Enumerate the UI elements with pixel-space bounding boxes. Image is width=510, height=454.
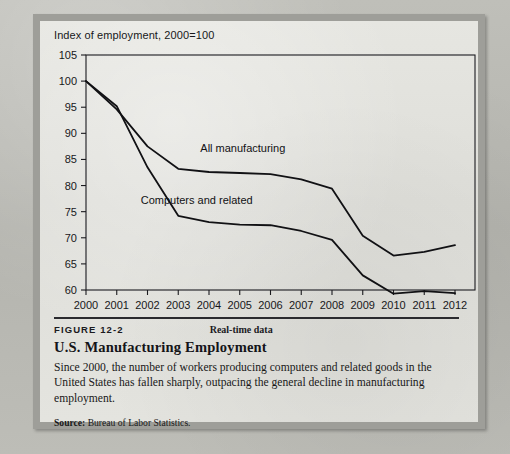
y-tick-label: 80	[65, 180, 77, 192]
x-tick-label: 2000	[74, 299, 98, 311]
realtime-data-label: Real-time data	[210, 324, 273, 335]
figure-description: Since 2000, the number of workers produc…	[54, 360, 460, 406]
chart-plot-area: 6065707580859095100105200020012002200320…	[40, 43, 478, 315]
y-tick-label: 65	[65, 258, 77, 270]
y-tick-label: 75	[65, 206, 77, 218]
caption-divider	[54, 317, 459, 319]
caption-header-row: FIGURE 12-2 Real-time data	[54, 324, 466, 335]
x-tick-label: 2002	[135, 299, 159, 311]
source-text: Bureau of Labor Statistics.	[88, 417, 191, 428]
x-tick-label: 2006	[258, 299, 282, 311]
figure-title: U.S. Manufacturing Employment	[54, 339, 466, 356]
plot-frame	[86, 55, 475, 290]
figure-number: FIGURE 12-2	[54, 324, 124, 335]
data-series-line	[86, 81, 455, 294]
y-tick-label: 100	[59, 75, 77, 87]
x-tick-label: 2005	[228, 299, 252, 311]
y-tick-label: 90	[65, 127, 77, 139]
series-annotation-label: Computers and related	[141, 194, 253, 206]
x-tick-label: 2004	[197, 299, 221, 311]
x-tick-label: 2012	[443, 299, 467, 311]
y-tick-label: 60	[65, 284, 77, 296]
x-tick-label: 2007	[289, 299, 313, 311]
data-series-line	[86, 81, 455, 255]
source-prefix: Source:	[54, 417, 85, 428]
x-tick-label: 2011	[412, 299, 436, 311]
figure-caption: FIGURE 12-2 Real-time data U.S. Manufact…	[54, 317, 466, 428]
y-axis-title: Index of employment, 2000=100	[54, 29, 214, 41]
y-tick-label: 95	[65, 101, 77, 113]
y-tick-label: 85	[65, 153, 77, 165]
x-tick-label: 2009	[351, 299, 375, 311]
x-tick-label: 2010	[381, 299, 405, 311]
x-tick-label: 2008	[320, 299, 344, 311]
employment-line-chart: 6065707580859095100105200020012002200320…	[40, 43, 478, 315]
figure-frame: Index of employment, 2000=100 6065707580…	[33, 14, 485, 429]
figure-source: Source: Bureau of Labor Statistics.	[54, 417, 466, 428]
series-annotation-label: All manufacturing	[200, 142, 285, 154]
x-tick-label: 2001	[105, 299, 129, 311]
y-tick-label: 70	[65, 232, 77, 244]
y-tick-label: 105	[59, 49, 77, 61]
figure-panel: Index of employment, 2000=100 6065707580…	[40, 21, 478, 422]
x-tick-label: 2003	[166, 299, 190, 311]
